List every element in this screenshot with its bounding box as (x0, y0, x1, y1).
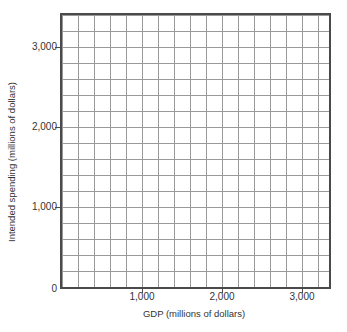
chart-canvas: 0 1,000 2,000 3,000 1,000 2,000 3,000 In… (0, 0, 347, 332)
y-tick-label-0: 0 (0, 283, 57, 295)
y-tick-mark-2000 (55, 127, 60, 128)
y-tick-mark-3000 (55, 47, 60, 48)
plot-area (60, 13, 331, 289)
x-tick-mark-3000 (302, 289, 303, 293)
x-tick-mark-2000 (222, 289, 223, 293)
x-axis-title: GDP (millions of dollars) (143, 308, 245, 319)
x-tick-mark-1000 (142, 289, 143, 293)
y-axis-title: Intended spending (millions of dollars) (6, 82, 17, 242)
y-tick-label-3000: 3,000 (0, 41, 57, 53)
y-tick-mark-1000 (55, 207, 60, 208)
